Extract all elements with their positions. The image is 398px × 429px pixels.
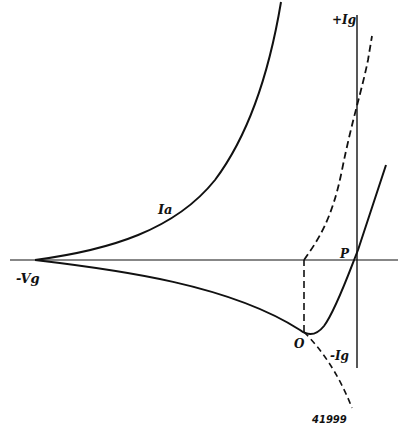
point-o-label: O (294, 338, 304, 350)
point-p-label: P (340, 248, 349, 260)
ia-curve (35, 2, 281, 260)
dashed-extension-curve (304, 332, 352, 408)
pos-ig-label: +Ig (332, 14, 356, 26)
ig-curve (35, 165, 386, 334)
neg-vg-label: -Vg (16, 272, 40, 285)
characteristic-curves-diagram (0, 0, 398, 429)
ia-label: Ia (158, 203, 173, 216)
neg-ig-label: -Ig (330, 350, 349, 362)
dashed-rise-curve (304, 36, 372, 260)
figure-number: 41999 (312, 415, 347, 425)
